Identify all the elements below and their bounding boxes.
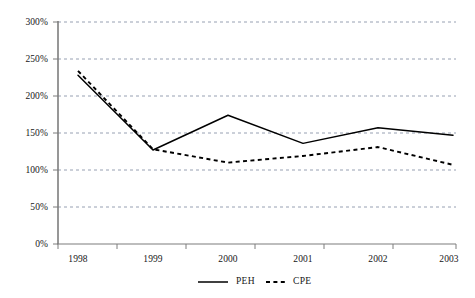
y-tick-label-200: 200% <box>6 91 48 101</box>
y-tick-label-100: 100% <box>6 165 48 175</box>
x-tick-label-2003: 2003 <box>429 254 469 264</box>
x-tick-label-1999: 1999 <box>133 254 173 264</box>
x-tick-label-2000: 2000 <box>208 254 248 264</box>
line-chart: 300% 250% 200% 150% 100% 50% 0% 1998 199… <box>0 0 475 298</box>
x-axis-ticks <box>58 244 456 249</box>
y-tick-label-250: 250% <box>6 54 48 64</box>
y-tick-label-300: 300% <box>6 17 48 27</box>
x-tick-label-2001: 2001 <box>283 254 323 264</box>
y-tick-label-50: 50% <box>6 202 48 212</box>
legend-label-cpe: CPE <box>293 276 311 287</box>
x-tick-label-2002: 2002 <box>358 254 398 264</box>
y-tick-label-150: 150% <box>6 128 48 138</box>
series-line-cpe <box>78 71 453 165</box>
x-tick-label-1998: 1998 <box>58 254 98 264</box>
series-line-peh <box>78 75 453 150</box>
y-tick-label-0: 0% <box>6 239 48 249</box>
legend-label-peh: PEH <box>236 276 255 287</box>
